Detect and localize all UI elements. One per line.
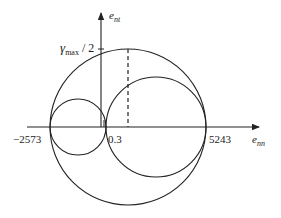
x-tick-label-min: −2573 [13, 133, 42, 145]
mohr-circle-diagram: ent γmax / 2 −2573 0.3 5243 enn [0, 0, 281, 218]
x-tick-label-max: 5243 [209, 133, 232, 145]
gamma-max-label: γmax / 2 [60, 40, 94, 57]
y-axis-label: ent [109, 9, 121, 24]
x-tick-label-origin: 0.3 [108, 133, 122, 145]
x-axis-label: enn [252, 133, 265, 148]
